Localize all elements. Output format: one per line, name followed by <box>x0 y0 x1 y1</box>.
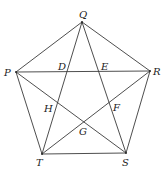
vertex-t <box>41 153 43 155</box>
vertex-r <box>149 70 151 72</box>
label-t: T <box>36 157 44 168</box>
segment-tp <box>16 72 42 154</box>
label-s: S <box>122 157 129 168</box>
label-e: E <box>100 61 109 72</box>
vertex-p <box>15 71 17 73</box>
label-g: G <box>79 126 87 137</box>
vertex-s <box>125 152 127 154</box>
labels-group: Q P R T S D E H F G <box>3 9 161 168</box>
label-d: D <box>57 61 66 72</box>
label-h: H <box>43 103 53 114</box>
segment-ps <box>16 72 126 153</box>
vertex-q <box>81 21 83 23</box>
label-r: R <box>152 66 161 77</box>
label-p: P <box>3 67 11 78</box>
label-q: Q <box>79 9 87 20</box>
segment-qr <box>82 22 150 71</box>
segment-rt <box>42 71 150 154</box>
segment-st <box>42 153 126 154</box>
segment-pq <box>16 22 82 72</box>
segment-rs <box>126 71 150 153</box>
pentagon-diagram: Q P R T S D E H F G <box>0 0 163 170</box>
segment-qs <box>82 22 126 153</box>
label-f: F <box>112 102 121 113</box>
segment-pr <box>16 71 150 72</box>
segment-qt <box>42 22 82 154</box>
